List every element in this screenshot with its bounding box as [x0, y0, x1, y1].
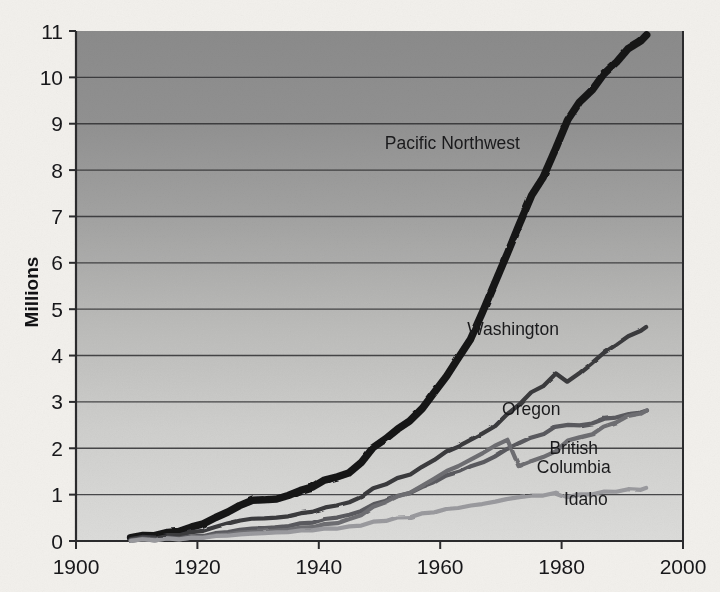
population-line-chart-figure: Pacific NorthwestWashingtonOregonBritish…: [0, 0, 720, 592]
chart-canvas: Pacific NorthwestWashingtonOregonBritish…: [0, 0, 720, 592]
paper-grain-overlay: [0, 0, 720, 592]
